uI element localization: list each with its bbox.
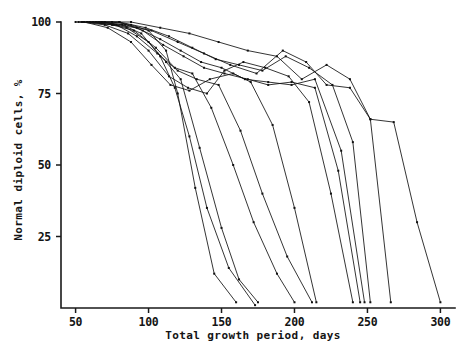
series-marker — [194, 187, 196, 189]
series-culture-12 — [98, 21, 441, 303]
y-tick-label-50: 50 — [38, 158, 52, 172]
series-marker — [209, 78, 211, 80]
series-marker — [124, 24, 126, 26]
y-tick-label-100: 100 — [31, 15, 51, 29]
x-tick-label-250: 250 — [358, 315, 378, 329]
series-marker — [369, 118, 371, 120]
series-marker — [203, 52, 205, 54]
series-marker — [203, 67, 205, 69]
series-marker — [156, 52, 158, 54]
series-marker — [315, 301, 317, 303]
y-axis-title: Normal diploid cells, % — [12, 79, 25, 241]
x-tick-label-100: 100 — [139, 315, 159, 329]
series-marker — [238, 64, 240, 66]
series-marker — [213, 273, 215, 275]
series-marker — [314, 87, 316, 89]
series-marker — [340, 150, 342, 152]
series-marker — [285, 55, 287, 57]
series-marker — [308, 67, 310, 69]
series-marker — [145, 27, 147, 29]
series-marker — [261, 70, 263, 72]
x-axis-title: Total growth period, days — [165, 329, 341, 342]
series-marker — [191, 72, 193, 74]
series-marker — [311, 301, 313, 303]
series-marker — [305, 61, 307, 63]
series-line-culture-11 — [96, 22, 391, 302]
axis-spine — [61, 22, 455, 308]
series-culture-10 — [89, 21, 371, 303]
series-marker — [218, 41, 220, 43]
series-line-culture-8 — [93, 22, 360, 302]
series-marker — [221, 67, 223, 69]
series-marker — [247, 50, 249, 52]
series-marker — [369, 301, 371, 303]
series-marker — [174, 87, 176, 89]
series-marker — [200, 61, 202, 63]
series-marker — [267, 84, 269, 86]
series-marker — [218, 84, 220, 86]
series-marker — [162, 44, 164, 46]
series-marker — [293, 207, 295, 209]
series-marker — [239, 130, 241, 132]
axis-layer — [56, 22, 455, 313]
series-marker — [272, 124, 274, 126]
series-marker — [86, 21, 88, 23]
series-culture-1 — [75, 21, 238, 303]
series-marker — [159, 27, 161, 29]
series-marker — [80, 21, 82, 23]
series-marker — [95, 21, 97, 23]
series-marker — [314, 78, 316, 80]
series-marker — [416, 221, 418, 223]
series-marker — [221, 227, 223, 229]
series-marker — [133, 30, 135, 32]
series-culture-5 — [89, 21, 313, 303]
series-marker — [177, 70, 179, 72]
x-tick-label-50: 50 — [69, 315, 83, 329]
series-marker — [130, 21, 132, 23]
series-marker — [286, 256, 288, 258]
series-marker — [223, 72, 225, 74]
figure-container: 25507510050100150200250300 Total growth … — [0, 0, 475, 355]
series-marker — [390, 301, 392, 303]
series-marker — [276, 273, 278, 275]
series-marker — [150, 64, 152, 66]
series-marker — [169, 84, 171, 86]
series-marker — [364, 301, 366, 303]
series-marker — [140, 32, 142, 34]
series-line-culture-7 — [81, 22, 352, 302]
series-marker — [107, 27, 109, 29]
series-marker — [349, 78, 351, 80]
x-tick-label-300: 300 — [430, 315, 450, 329]
series-marker — [165, 50, 167, 52]
series-marker — [127, 32, 129, 34]
x-tick-label-200: 200 — [285, 315, 305, 329]
y-tick-label-75: 75 — [38, 87, 52, 101]
series-marker — [359, 301, 361, 303]
series-marker — [352, 301, 354, 303]
series-culture-6 — [83, 21, 317, 303]
x-tick-label-150: 150 — [212, 315, 232, 329]
series-marker — [206, 207, 208, 209]
series-marker — [393, 121, 395, 123]
series-marker — [352, 141, 354, 143]
series-marker — [337, 170, 339, 172]
series-marker — [282, 50, 284, 52]
series-marker — [188, 135, 190, 137]
series-marker — [288, 75, 290, 77]
series-line-culture-5 — [90, 22, 312, 302]
series-marker — [168, 35, 170, 37]
series-marker — [250, 81, 252, 83]
series-marker — [130, 41, 132, 43]
y-tick-label-25: 25 — [38, 230, 52, 244]
series-marker — [291, 81, 293, 83]
series-marker — [291, 84, 293, 86]
series-marker — [261, 193, 263, 195]
series-marker — [308, 101, 310, 103]
series-marker — [180, 78, 182, 80]
series-marker — [276, 55, 278, 57]
series-marker — [188, 90, 190, 92]
series-marker — [159, 38, 161, 40]
series-marker — [78, 21, 80, 23]
series-marker — [238, 278, 240, 280]
series-culture-7 — [80, 21, 353, 303]
